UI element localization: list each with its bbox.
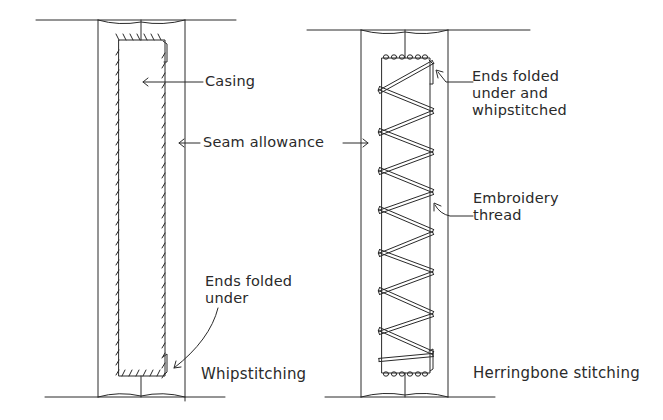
label-casing: Casing [205, 73, 255, 90]
diagram-drawing [0, 0, 663, 420]
sewing-diagram: Casing Seam allowance Ends folded under … [0, 0, 663, 420]
caption-herringbone-stitching: Herringbone stitching [473, 365, 640, 382]
caption-whipstitching: Whipstitching [201, 366, 306, 383]
label-ends-folded-whipstitched: Ends folded under and whipstitched [472, 68, 567, 119]
ends-folded-leader [174, 308, 218, 368]
herringbone-threads [378, 61, 434, 362]
casing-rect [119, 40, 165, 376]
whipstitch-ticks-top [116, 34, 161, 40]
whipstitch-ticks-bottom [122, 370, 160, 376]
label-embroidery-thread: Embroidery thread [473, 190, 559, 224]
embroidery-thread-arrowhead [434, 203, 441, 211]
label-seam-allowance: Seam allowance [203, 134, 324, 151]
embroidery-thread-leader [435, 205, 473, 216]
whipstitch-ticks-sides [116, 50, 165, 378]
label-ends-folded-under: Ends folded under [205, 273, 292, 307]
ends-folded-whipstitched-leader [438, 72, 473, 82]
